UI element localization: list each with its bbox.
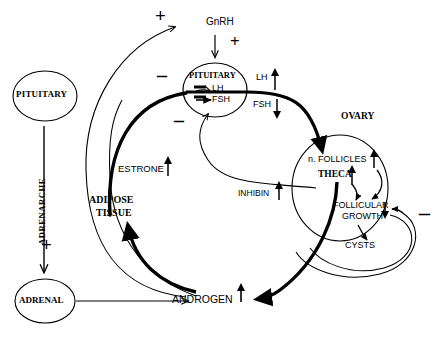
trend-arrow-lh-output	[271, 68, 279, 90]
node-label-androgen: ANDROGEN	[172, 294, 233, 305]
node-label-estrone: ESTRONE	[118, 164, 164, 174]
node-label-pituitary-main: PITUITARY	[189, 71, 236, 80]
trend-arrow-androgen	[237, 283, 245, 302]
trend-arrow-estrone	[164, 156, 172, 176]
node-label-follicles: n. FOLLICLES	[308, 155, 367, 164]
diagram-vector-layer	[0, 0, 444, 337]
node-label-follicular-growth-line1: FOLLICULAR	[333, 201, 389, 210]
node-label-follicular-growth-line2: GROWTH	[342, 212, 383, 221]
node-label-cysts: CYSTS	[345, 241, 375, 250]
theca-to-androgen-curve	[258, 182, 337, 299]
theca-to-follicular-growth-arrow	[352, 184, 357, 200]
diagram-canvas: PITUITARY ADRENAL ADRENARCHE + + GnRH + …	[0, 0, 444, 337]
sign-minus-upper-left: –	[157, 65, 167, 85]
trend-arrow-fsh-output	[273, 99, 281, 119]
node-label-pituitary-left: PITUITARY	[16, 90, 67, 99]
node-label-theca: THECA	[318, 170, 352, 180]
sign-minus-right: –	[419, 202, 430, 224]
node-label-adipose-tissue-line2: TISSUE	[96, 208, 132, 218]
node-label-ovary: OVARY	[341, 112, 374, 122]
trend-arrow-inhibin	[275, 181, 283, 200]
hormone-label-fsh-output: FSH	[253, 100, 271, 109]
hormone-label-lh-pituitary: LH	[212, 84, 224, 93]
sign-plus-gnrh: +	[230, 33, 240, 50]
follicles-to-follicular-growth-arrow	[372, 170, 382, 199]
hormone-label-lh-output: LH	[256, 73, 268, 82]
node-label-adrenal: ADRENAL	[19, 296, 64, 305]
sign-minus-lower-left: –	[174, 110, 184, 130]
inhibin-feedback-curve	[200, 114, 316, 188]
trend-arrow-follicles	[370, 149, 378, 168]
node-label-gnrh: GnRH	[206, 17, 234, 27]
node-label-inhibin: INHIBIN	[238, 189, 269, 198]
node-label-adipose-tissue-line1: ADIPOSE	[89, 195, 133, 205]
hormone-label-fsh-pituitary: FSH	[212, 95, 230, 104]
sign-plus-adrenarche: +	[41, 235, 52, 254]
follicular-growth-inhibition-arrow	[392, 209, 404, 214]
sign-plus-top: +	[155, 6, 166, 25]
